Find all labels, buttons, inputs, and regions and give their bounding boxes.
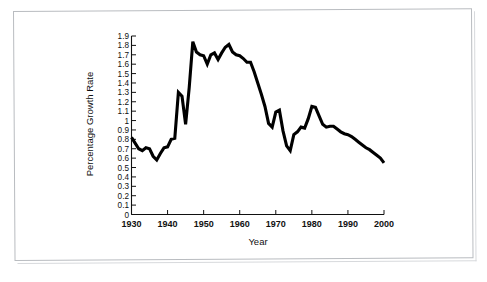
y-axis-tick-label: 1.1 <box>118 107 130 116</box>
x-axis-tick-label: 2000 <box>374 219 394 229</box>
figure-root: Percentage Growth Rate 00.10.20.30.40.50… <box>0 0 487 282</box>
y-axis-tick-label: 1.5 <box>118 70 130 79</box>
y-axis-tick-label: 1.6 <box>118 60 130 69</box>
x-axis-tick-label: 1990 <box>338 219 358 229</box>
x-axis-tick-label: 1950 <box>194 219 214 229</box>
x-axis-tick-marks <box>132 210 385 215</box>
y-axis-tick-label: 1.3 <box>118 88 130 97</box>
y-axis-tick-label: 0.9 <box>118 126 130 135</box>
y-axis-tick-label: 0.6 <box>118 154 130 163</box>
x-axis-tick-label: 1980 <box>302 219 322 229</box>
y-axis-tick-labels: 00.10.20.30.40.50.60.70.80.911.11.21.31.… <box>118 32 130 220</box>
y-axis-tick-label: 0.3 <box>118 182 130 191</box>
y-axis-tick-label: 0.7 <box>118 145 130 154</box>
y-axis-tick-label: 1.9 <box>118 32 130 41</box>
y-axis-tick-label: 1.8 <box>118 41 130 50</box>
y-axis-title: Percentage Growth Rate <box>84 72 95 177</box>
x-axis-title: Year <box>248 236 267 247</box>
data-series-line <box>132 42 385 163</box>
y-axis-tick-label: 0.5 <box>118 164 130 173</box>
y-axis-tick-label: 1.4 <box>118 79 130 88</box>
y-axis <box>132 36 137 215</box>
chart-canvas: Percentage Growth Rate 00.10.20.30.40.50… <box>0 0 487 282</box>
x-axis-tick-labels: 19301940195019601970198019902000 <box>121 219 394 229</box>
y-axis-tick-label: 1.2 <box>118 98 130 107</box>
y-axis-tick-label: 0.2 <box>118 192 130 201</box>
y-axis-tick-label: 1 <box>124 117 129 126</box>
x-axis-tick-label: 1960 <box>230 219 250 229</box>
x-axis-tick-label: 1930 <box>121 219 141 229</box>
y-axis-tick-label: 1.7 <box>118 51 130 60</box>
x-axis-tick-label: 1940 <box>158 219 178 229</box>
y-axis-tick-label: 0.4 <box>118 173 130 182</box>
y-axis-tick-label: 0.1 <box>118 201 130 210</box>
x-axis <box>132 210 385 215</box>
x-axis-tick-label: 1970 <box>266 219 286 229</box>
y-axis-tick-marks <box>132 36 137 215</box>
y-axis-tick-label: 0.8 <box>118 135 130 144</box>
